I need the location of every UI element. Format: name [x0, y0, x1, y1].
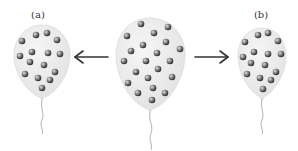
label-a: (a): [31, 9, 45, 20]
balloon-middle: [116, 18, 185, 150]
balloon-a: [14, 25, 70, 134]
balloon-b: [238, 28, 286, 134]
arrow-left-icon: [75, 51, 108, 63]
arrow-right-icon: [195, 51, 228, 63]
label-b: (b): [254, 9, 268, 20]
balloon-diagram: [0, 0, 298, 151]
